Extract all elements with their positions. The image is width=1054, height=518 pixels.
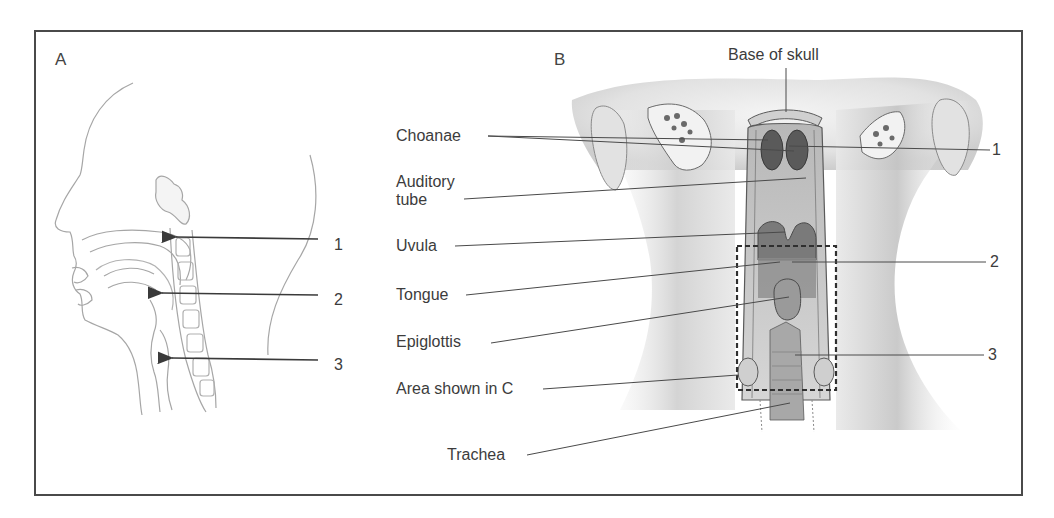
panel-a-head-illustration	[55, 83, 316, 415]
label-tube: tube	[396, 191, 427, 209]
panel-a-number-2: 2	[334, 291, 343, 309]
arrow-3	[172, 358, 318, 360]
label-uvula: Uvula	[396, 237, 437, 255]
label-base-of-skull: Base of skull	[728, 46, 819, 64]
panel-a-number-1: 1	[334, 236, 343, 254]
arrow-2	[162, 293, 318, 295]
label-area-shown-in-c: Area shown in C	[396, 380, 513, 398]
panel-b-number-1: 1	[992, 141, 1001, 159]
panel-a-number-3: 3	[334, 356, 343, 374]
arrow-1	[176, 237, 318, 239]
label-choanae: Choanae	[396, 127, 461, 145]
label-tongue: Tongue	[396, 286, 449, 304]
illustration-canvas	[0, 0, 1054, 518]
label-auditory: Auditory	[396, 173, 455, 191]
panel-b-neck-illustration	[572, 78, 983, 432]
label-trachea: Trachea	[447, 446, 505, 464]
label-epiglottis: Epiglottis	[396, 333, 461, 351]
panel-b-number-3: 3	[988, 346, 997, 364]
panel-b-number-2: 2	[990, 253, 999, 271]
